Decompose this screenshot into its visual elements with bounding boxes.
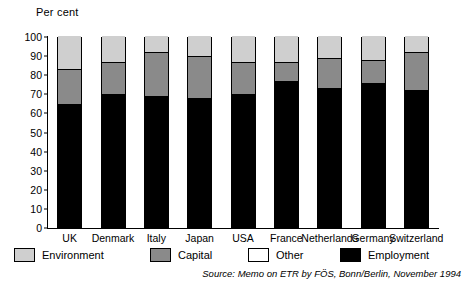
bar-segment-divider (275, 62, 298, 63)
bar-segment-employment (145, 97, 168, 227)
x-axis-label-usa: USA (232, 232, 254, 244)
legend-label-employment: Employment (368, 249, 429, 261)
y-axis-tick-label: 90 (8, 50, 48, 62)
y-axis-tick-label: 70 (8, 88, 48, 100)
x-axis-line (47, 228, 439, 229)
legend-item-other[interactable]: Other (248, 248, 304, 262)
x-axis-label-france: France (270, 232, 303, 244)
bar-segment-divider (102, 62, 125, 63)
y-axis-tick-mark (44, 228, 48, 229)
bar-segment-divider (58, 104, 81, 105)
bar-segment-environment (405, 36, 428, 53)
x-axis-label-italy: Italy (147, 232, 166, 244)
x-axis-label-switzerland: Switzerland (389, 232, 443, 244)
y-axis-title: Per cent (36, 6, 79, 18)
y-axis-tick-label: 100 (8, 31, 48, 43)
bar-segment-employment (362, 84, 385, 227)
y-axis-tick-label: 30 (8, 165, 48, 177)
bar-segment-employment (318, 89, 341, 227)
bar-segment-capital (188, 57, 211, 99)
bar-segment-environment (362, 36, 385, 61)
bar-segment-employment (405, 91, 428, 227)
bar-segment-divider (188, 98, 211, 99)
bar-segment-divider (405, 52, 428, 53)
legend-label-capital: Capital (178, 249, 212, 261)
bar-segment-employment (275, 82, 298, 227)
y-axis-tick-mark (44, 75, 48, 76)
y-axis-tick-mark (44, 37, 48, 38)
bar-segment-capital (102, 63, 125, 95)
plot-area: 0102030405060708090100 (48, 37, 438, 228)
y-axis-tick-label: 80 (8, 69, 48, 81)
bar-segment-divider (318, 58, 341, 59)
source-note: Source: Memo on ETR by FÖS, Bonn/Berlin,… (202, 268, 461, 279)
bar-segment-capital (405, 53, 428, 91)
bar-segment-environment (318, 36, 341, 59)
legend-item-capital[interactable]: Capital (150, 248, 212, 262)
bar-uk (57, 37, 82, 228)
y-axis-tick-mark (44, 170, 48, 171)
bar-segment-divider (405, 90, 428, 91)
legend-swatch-environment (14, 248, 35, 262)
bar-usa (231, 37, 256, 228)
bar-segment-capital (232, 63, 255, 95)
x-axis-label-uk: UK (62, 232, 77, 244)
y-axis-tick-mark (44, 113, 48, 114)
bar-segment-divider (362, 83, 385, 84)
bar-segment-capital (145, 53, 168, 97)
y-axis-tick-mark (44, 56, 48, 57)
y-axis-tick-label: 0 (8, 222, 48, 234)
bar-segment-capital (275, 63, 298, 82)
bar-denmark (101, 37, 126, 228)
x-axis-label-netherlands: Netherlands (301, 232, 358, 244)
y-axis-tick-mark (44, 94, 48, 95)
x-axis-label-germany: Germany (351, 232, 394, 244)
x-axis-label-japan: Japan (185, 232, 214, 244)
bar-italy (144, 37, 169, 228)
bar-segment-capital (362, 61, 385, 84)
bar-segment-divider (188, 56, 211, 57)
bar-segment-capital (58, 70, 81, 104)
bar-segment-environment (232, 36, 255, 63)
bar-segment-divider (275, 81, 298, 82)
stacked-bar-chart: Per cent 0102030405060708090100 Environm… (0, 0, 465, 287)
bar-segment-divider (58, 69, 81, 70)
bar-segment-environment (188, 36, 211, 57)
bar-segment-divider (232, 94, 255, 95)
bar-netherlands (317, 37, 342, 228)
bar-japan (187, 37, 212, 228)
legend-swatch-capital (150, 248, 171, 262)
y-axis-tick-mark (44, 151, 48, 152)
bar-segment-environment (275, 36, 298, 63)
y-axis-tick-label: 60 (8, 107, 48, 119)
bar-segment-employment (102, 95, 125, 227)
bar-segment-divider (145, 96, 168, 97)
y-axis-tick-mark (44, 132, 48, 133)
legend-swatch-employment (340, 248, 361, 262)
bar-segment-employment (58, 105, 81, 227)
legend-swatch-other (248, 248, 269, 262)
legend-item-environment[interactable]: Environment (14, 248, 104, 262)
bar-segment-capital (318, 59, 341, 90)
legend-label-other: Other (276, 249, 304, 261)
bar-segment-employment (188, 99, 211, 227)
y-axis-tick-label: 20 (8, 184, 48, 196)
legend-item-employment[interactable]: Employment (340, 248, 429, 262)
bar-segment-employment (232, 95, 255, 227)
bar-segment-divider (318, 88, 341, 89)
bar-segment-environment (58, 36, 81, 70)
chart-legend: EnvironmentCapitalOtherEmployment (0, 248, 465, 268)
bar-germany (361, 37, 386, 228)
y-axis-tick-mark (44, 208, 48, 209)
bar-segment-divider (145, 52, 168, 53)
y-axis-tick-label: 50 (8, 127, 48, 139)
y-axis-tick-mark (44, 189, 48, 190)
bar-segment-environment (102, 36, 125, 63)
bar-segment-divider (102, 94, 125, 95)
y-axis-tick-label: 40 (8, 146, 48, 158)
bar-switzerland (404, 37, 429, 228)
legend-label-environment: Environment (42, 249, 104, 261)
bar-segment-divider (362, 60, 385, 61)
bar-france (274, 37, 299, 228)
y-axis-tick-label: 10 (8, 203, 48, 215)
